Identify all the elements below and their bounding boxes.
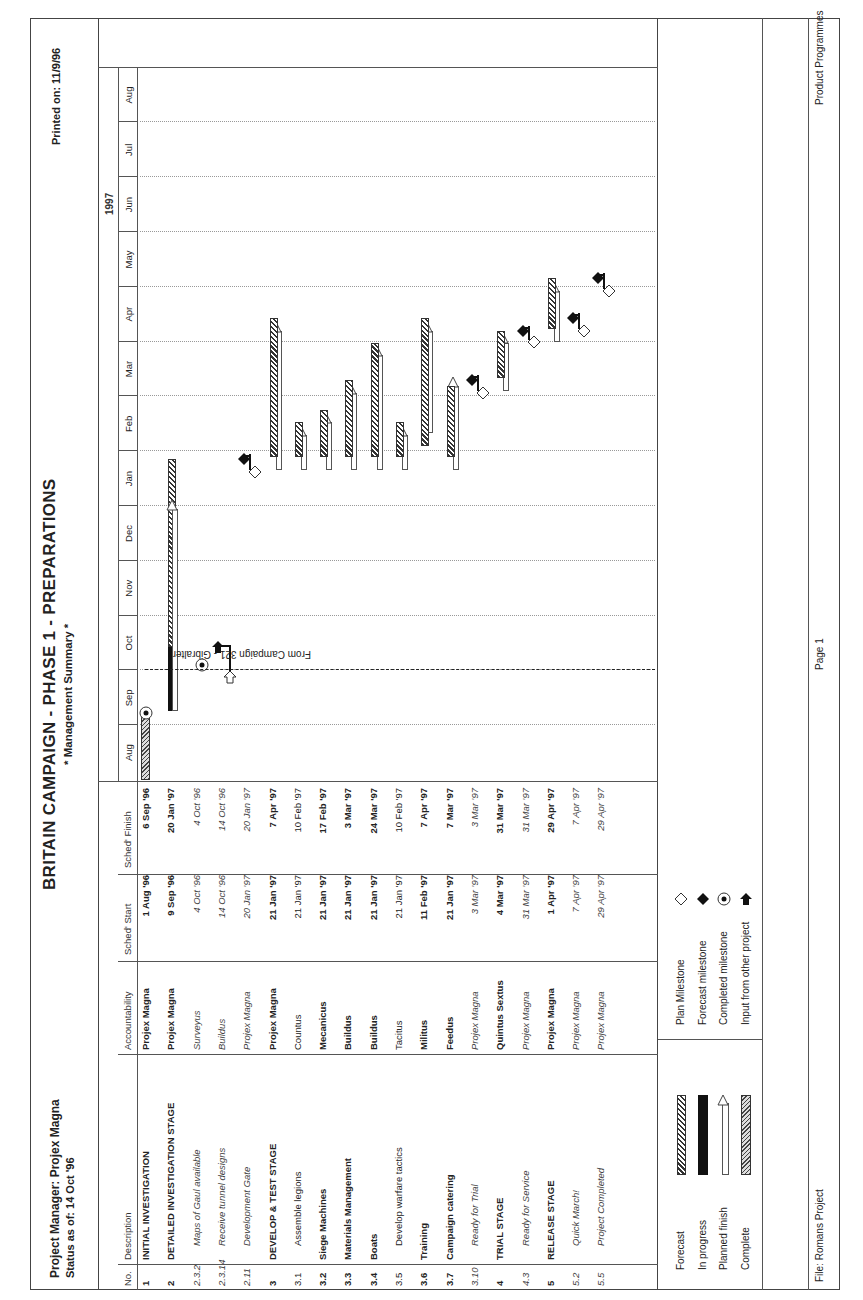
- milestone-link: [573, 314, 580, 316]
- month-gridline: [140, 286, 655, 287]
- month-tick: [118, 121, 137, 122]
- forecast-bar: [270, 318, 278, 457]
- row-description: Ready for Service: [520, 1170, 532, 1246]
- row-start: 21 Jan '97: [317, 875, 329, 955]
- month-tick: [118, 615, 137, 616]
- milestone-link: [244, 455, 251, 457]
- row-accountability: Mecanicus: [317, 1001, 329, 1050]
- row-finish: 20 Jan '97: [165, 788, 177, 868]
- row-number: 3.5: [393, 1273, 405, 1286]
- row-start: 11 Feb '97: [418, 875, 430, 955]
- row-description: Develop warfare tactics: [393, 1147, 405, 1246]
- milestone-link: [472, 376, 479, 378]
- row-finish: 3 Mar '97: [469, 788, 481, 868]
- month-label: Apr: [123, 287, 134, 342]
- row-start: 1 Apr '97: [545, 875, 557, 955]
- row-start: 1 Aug '96: [140, 875, 152, 955]
- month-label: Jul: [123, 122, 134, 177]
- open-diamond-icon: [675, 893, 687, 905]
- row-number: 3.10: [469, 1268, 481, 1287]
- row-start: 21 Jan '97: [393, 875, 405, 955]
- col-header-no: No.: [122, 1271, 134, 1286]
- month-tick: [118, 231, 137, 232]
- row-accountability: Quintus Sextus: [494, 980, 506, 1050]
- month-gridline: [140, 395, 655, 396]
- forecast-bar: [421, 318, 429, 446]
- row-description: Development Gate: [241, 1167, 253, 1246]
- row-description: Maps of Gaul available: [191, 1149, 203, 1246]
- month-label: Aug: [123, 725, 134, 780]
- status-date-line: [145, 669, 655, 670]
- row-number: 3.2: [317, 1273, 329, 1286]
- legend-label: Planned finish: [718, 1207, 729, 1270]
- row-start: 21 Jan '97: [368, 875, 380, 955]
- row-start: 7 Apr '97: [570, 875, 582, 955]
- row-start: 14 Oct '96: [216, 875, 228, 955]
- row-start: 9 Sep '96: [165, 875, 177, 955]
- row-description: Siege Machines: [317, 1189, 329, 1260]
- row-start: 4 Oct '96: [191, 875, 203, 955]
- circle-dot-icon: [717, 892, 731, 906]
- legend-sep: [658, 1039, 762, 1040]
- footer-top: [808, 18, 809, 1290]
- printed-on: Printed on: 11/9/96: [50, 48, 62, 145]
- year-label: 1997: [104, 193, 115, 215]
- row-description: Boats: [368, 1234, 380, 1260]
- row-finish: 7 Mar '97: [444, 788, 456, 868]
- row-accountability: Buildus: [216, 1019, 228, 1050]
- col-header-start: Sched' Start: [122, 904, 134, 955]
- month-label: May: [123, 232, 134, 287]
- row-accountability: Militus: [418, 1020, 430, 1050]
- project-manager: Project Manager: Projex Magna: [48, 1099, 62, 1278]
- month-label: Feb: [123, 396, 134, 451]
- legend-complete-swatch: [741, 1095, 751, 1175]
- month-gridline: [140, 176, 655, 177]
- milestone-link: [598, 274, 605, 276]
- row-finish: 10 Feb '97: [292, 788, 304, 868]
- col-sep: [98, 781, 658, 782]
- legend-label: In progress: [697, 1220, 708, 1270]
- legend-label: Forecast: [675, 1231, 686, 1270]
- month-label: Nov: [123, 561, 134, 616]
- footer-group: Product Programmes: [814, 11, 825, 105]
- row-accountability: Tacitus: [393, 1020, 405, 1050]
- forecast-bar: [396, 422, 404, 457]
- row-description: DETAILED INVESTIGATION STAGE: [165, 1103, 177, 1260]
- row-number: 2.11: [241, 1268, 253, 1286]
- month-tick: [118, 395, 137, 396]
- month-header-top: [118, 68, 119, 782]
- month-label: Aug: [123, 68, 134, 123]
- legend-milestone-label: Plan Milestone: [675, 959, 686, 1025]
- legend-milestone-label: Forecast milestone: [697, 941, 708, 1025]
- row-description: INITIAL INVESTIGATION: [140, 1151, 152, 1260]
- month-label: Mar: [123, 342, 134, 397]
- row-finish: 7 Apr '97: [267, 788, 279, 868]
- legend-top: [762, 18, 763, 1290]
- row-finish: 20 Jan '97: [241, 788, 253, 868]
- row-number: 5: [545, 1281, 557, 1286]
- row-finish: 7 Apr '97: [418, 788, 430, 868]
- forecast-bar: [345, 380, 353, 457]
- col-header-accountability: Accountability: [122, 991, 134, 1050]
- row-finish: 6 Sep '96: [140, 788, 152, 868]
- planned-finish-icon: [718, 1093, 730, 1105]
- input-annotation: From Campaign 321 - Gibralter: [173, 649, 311, 660]
- complete-bar: [141, 716, 150, 780]
- row-finish: 10 Feb '97: [393, 788, 405, 868]
- month-gridline: [140, 724, 655, 725]
- month-tick: [118, 724, 137, 725]
- row-finish: 4 Oct '96: [191, 788, 203, 868]
- row-start: 21 Jan '97: [267, 875, 279, 955]
- row-finish: 3 Mar '97: [342, 788, 354, 868]
- month-gridline: [140, 121, 655, 122]
- page-subtitle: * Management Summary *: [62, 624, 74, 765]
- row-description: Project Completed: [595, 1168, 607, 1246]
- chart-right-edge: [98, 67, 658, 68]
- row-accountability: Projex Magna: [469, 991, 481, 1050]
- month-label: Jun: [123, 177, 134, 232]
- legend-label: Complete: [740, 1227, 751, 1270]
- row-finish: 31 Mar '97: [494, 788, 506, 868]
- month-gridline: [140, 615, 655, 616]
- row-number: 3.7: [444, 1273, 456, 1286]
- legend-planned-swatch: [722, 1103, 729, 1175]
